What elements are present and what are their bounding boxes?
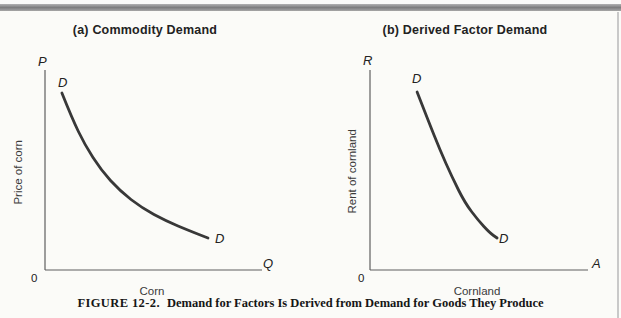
panel-a-curve-start-label: D [58, 76, 67, 89]
panel-a-y-symbol: P [38, 55, 47, 68]
panel-a-demand-curve [62, 93, 208, 238]
panel-b-curve-end-label: D [499, 232, 508, 245]
figure-page: (a) Commodity Demand (b) Derived Factor … [0, 0, 621, 318]
figure-caption: FIGURE 12-2.Demand for Factors Is Derive… [0, 296, 621, 311]
figure-caption-number: FIGURE 12-2. [77, 296, 160, 310]
panel-b-origin-label: 0 [358, 273, 364, 285]
panel-b-demand-curve [417, 92, 497, 238]
panel-a-x-symbol: Q [263, 257, 273, 270]
panel-b-curve-start-label: D [412, 72, 421, 85]
panel-b-y-symbol: R [363, 54, 372, 67]
panel-b-x-symbol: A [592, 257, 601, 270]
plots-canvas [0, 0, 621, 318]
panel-b-y-axis-label: Rent of cornland [346, 121, 359, 221]
panel-a-y-axis-label: Price of corn [12, 122, 25, 222]
panel-a-origin-label: 0 [31, 273, 37, 285]
panel-a-curve-end-label: D [215, 232, 224, 245]
figure-caption-text: Demand for Factors Is Derived from Deman… [167, 296, 544, 310]
